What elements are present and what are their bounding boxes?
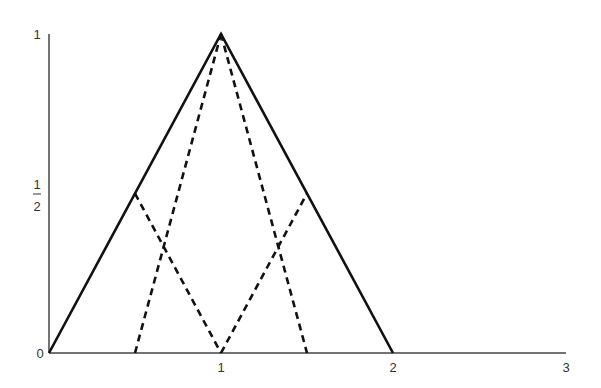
x-tick-one: 1 xyxy=(217,360,224,375)
x-tick-three: 3 xyxy=(562,360,569,375)
dashed-line-1 xyxy=(135,194,221,354)
dashed-line-3 xyxy=(221,34,307,353)
y-tick-half-denominator: 2 xyxy=(33,199,40,214)
origin-label: 0 xyxy=(36,346,43,361)
dashed-line-4 xyxy=(221,194,307,354)
y-tick-one: 1 xyxy=(33,27,40,42)
dashed-line-2 xyxy=(135,34,221,353)
x-tick-two: 2 xyxy=(389,360,396,375)
chart: 1 1 2 0 1 2 3 xyxy=(0,0,601,388)
triangle-line xyxy=(49,34,393,353)
y-tick-half-numerator: 1 xyxy=(33,177,40,192)
